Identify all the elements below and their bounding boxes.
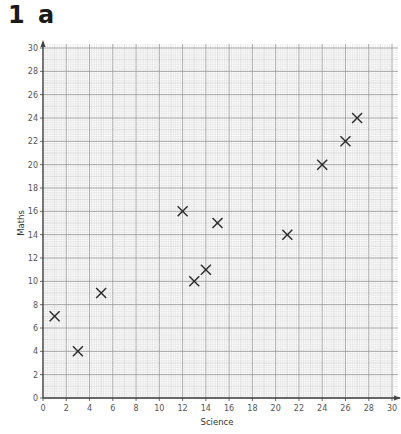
x-tick-label: 22 bbox=[294, 404, 304, 413]
y-tick-label: 22 bbox=[28, 137, 38, 146]
y-tick-label: 0 bbox=[33, 394, 38, 403]
x-tick-label: 6 bbox=[110, 404, 115, 413]
y-tick-label: 28 bbox=[28, 67, 38, 76]
y-tick-label: 6 bbox=[33, 324, 38, 333]
x-tick-label: 8 bbox=[134, 404, 139, 413]
x-tick-label: 28 bbox=[364, 404, 374, 413]
x-tick-label: 24 bbox=[317, 404, 327, 413]
x-axis-label: Science bbox=[201, 417, 234, 427]
x-tick-label: 16 bbox=[224, 404, 234, 413]
y-tick-label: 8 bbox=[33, 301, 38, 310]
y-tick-label: 24 bbox=[28, 114, 38, 123]
x-tick-label: 2 bbox=[64, 404, 69, 413]
y-tick-label: 16 bbox=[28, 207, 38, 216]
x-tick-label: 30 bbox=[387, 404, 397, 413]
x-tick-label: 20 bbox=[271, 404, 281, 413]
y-axis-label: Maths bbox=[16, 210, 26, 236]
y-tick-label: 4 bbox=[33, 347, 38, 356]
x-tick-label: 14 bbox=[201, 404, 211, 413]
x-tick-label: 18 bbox=[247, 404, 257, 413]
x-tick-label: 12 bbox=[178, 404, 188, 413]
x-tick-label: 0 bbox=[40, 404, 45, 413]
x-tick-label: 10 bbox=[154, 404, 164, 413]
y-tick-label: 20 bbox=[28, 161, 38, 170]
graph-paper-grid bbox=[43, 44, 398, 398]
y-tick-label: 10 bbox=[28, 277, 38, 286]
x-tick-label: 4 bbox=[87, 404, 92, 413]
y-tick-label: 30 bbox=[28, 44, 38, 53]
scatter-chart: 0246810121416182022242628300246810121416… bbox=[0, 0, 401, 434]
y-tick-label: 26 bbox=[28, 91, 38, 100]
y-tick-label: 14 bbox=[28, 231, 38, 240]
y-tick-label: 2 bbox=[33, 371, 38, 380]
y-tick-label: 18 bbox=[28, 184, 38, 193]
y-tick-label: 12 bbox=[28, 254, 38, 263]
x-tick-label: 26 bbox=[340, 404, 350, 413]
